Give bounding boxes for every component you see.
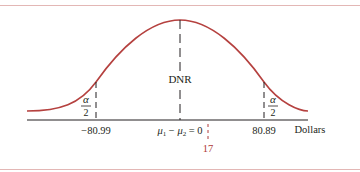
lower-tail-denominator: 2: [84, 107, 89, 118]
sample-statistic-value: 17: [203, 143, 214, 154]
dnr-label: DNR: [168, 73, 192, 85]
lower-tail-alpha: α: [83, 93, 89, 105]
normal-curve: [27, 20, 308, 111]
distribution-diagram: DNR α 2 α 2 −80.99 μ1 − μ2 = 0 80.89 Dol…: [0, 0, 360, 172]
upper-critical-value: 80.89: [252, 125, 276, 136]
center-value-label: μ1 − μ2 = 0: [156, 125, 202, 138]
upper-tail-alpha: α: [270, 93, 276, 105]
upper-tail-denominator: 2: [271, 107, 276, 118]
lower-critical-value: −80.99: [81, 125, 111, 136]
axis-unit-label: Dollars: [295, 124, 326, 135]
